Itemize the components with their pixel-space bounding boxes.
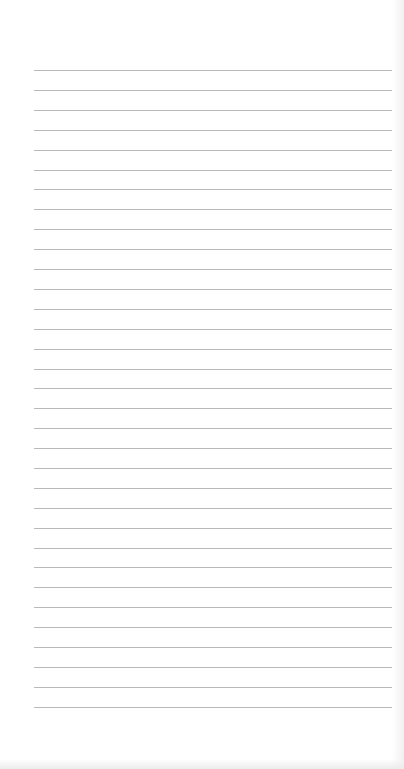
ruled-line — [34, 707, 392, 708]
ruled-line — [34, 567, 392, 568]
ruled-line — [34, 329, 392, 330]
ruled-line — [34, 647, 392, 648]
ruled-line — [34, 150, 392, 151]
ruled-line — [34, 508, 392, 509]
ruled-line — [34, 448, 392, 449]
ruled-line — [34, 189, 392, 190]
ruled-line — [34, 289, 392, 290]
lined-paper-page — [0, 0, 404, 769]
ruled-line — [34, 548, 392, 549]
ruled-line — [34, 110, 392, 111]
ruled-line — [34, 468, 392, 469]
ruled-line — [34, 667, 392, 668]
ruled-line — [34, 528, 392, 529]
ruled-line — [34, 249, 392, 250]
ruled-line — [34, 627, 392, 628]
ruled-line — [34, 687, 392, 688]
ruled-line — [34, 488, 392, 489]
ruled-line — [34, 70, 392, 71]
ruled-line — [34, 170, 392, 171]
ruled-line — [34, 349, 392, 350]
ruled-line — [34, 587, 392, 588]
ruled-line — [34, 209, 392, 210]
ruled-line — [34, 607, 392, 608]
ruled-line — [34, 130, 392, 131]
ruled-line — [34, 269, 392, 270]
ruled-line — [34, 369, 392, 370]
ruled-line — [34, 229, 392, 230]
ruled-line — [34, 428, 392, 429]
ruled-line — [34, 309, 392, 310]
ruled-line — [34, 408, 392, 409]
ruled-line — [34, 90, 392, 91]
ruled-line — [34, 388, 392, 389]
